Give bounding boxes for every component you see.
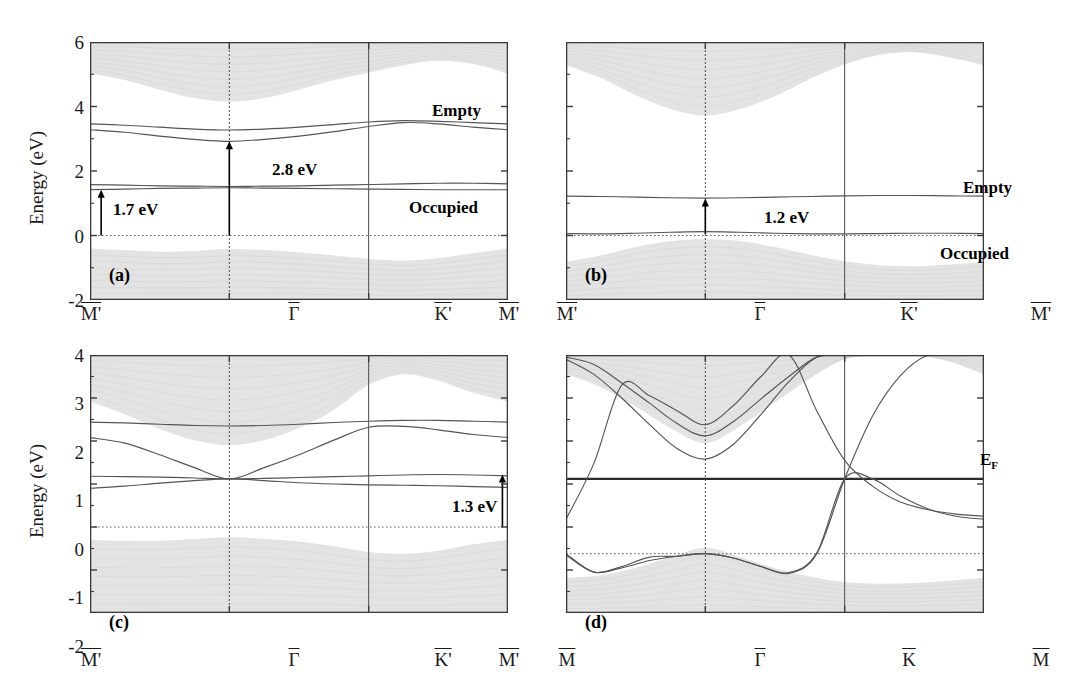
panel-b: [566, 42, 984, 300]
panel-b-label: (b): [585, 265, 607, 286]
panel-a-xtick-Mleft: M': [71, 303, 111, 325]
figure-band-structures: Energy (eV) 6 4 2 0 -2 M' Γ K' M' Empty …: [0, 0, 1087, 686]
panel-c-ytick-0: 0: [54, 539, 84, 561]
panel-a-ytick-4: 4: [54, 97, 84, 119]
panel-a-occupied-label: Occupied: [409, 198, 478, 218]
panel-c-xtick-Kprime: K': [423, 649, 463, 671]
panel-c-ytick-1: 1: [54, 490, 84, 512]
panel-d-xtick-K: K: [889, 649, 929, 671]
panel-a-xtick-Gamma: Γ: [274, 303, 314, 325]
panel-a-ytick-6: 6: [54, 32, 84, 54]
panel-c-ytick-3: 3: [54, 393, 84, 415]
panel-a-gap-center-label: 2.8 eV: [272, 160, 317, 180]
panel-a-empty-label: Empty: [432, 101, 481, 121]
panel-a-ytick-2: 2: [54, 161, 84, 183]
panel-c: [90, 355, 508, 613]
panel-b-xtick-Gamma: Γ: [740, 303, 780, 325]
panel-c-xtick-Mleft: M': [71, 649, 111, 671]
panel-b-empty-label: Empty: [963, 178, 1012, 198]
panel-a-gap-left-label: 1.7 eV: [113, 200, 158, 220]
panel-c-label: (c): [109, 612, 129, 633]
panel-d-label: (d): [585, 612, 607, 633]
panel-a-label: (a): [109, 265, 130, 286]
panel-d-xtick-Mleft: M: [547, 649, 587, 671]
panel-a-xtick-Kprime: K': [423, 303, 463, 325]
panel-d-xtick-Gamma: Γ: [740, 649, 780, 671]
panel-c-y-axis-label: Energy (eV): [26, 444, 48, 538]
panel-a-ytick-0: 0: [54, 226, 84, 248]
panel-a-xtick-Mright: M': [489, 303, 529, 325]
panel-d-xtick-Mright: M: [1021, 649, 1061, 671]
panel-b-xtick-Mleft: M': [547, 303, 587, 325]
panel-d: [566, 355, 984, 613]
panel-c-gap-right-label: 1.3 eV: [452, 497, 497, 517]
panel-c-ytick-neg1: -1: [46, 587, 84, 609]
panel-b-xtick-Kprime: K': [889, 303, 929, 325]
panel-b-xtick-Mright: M': [1021, 303, 1061, 325]
panel-b-occupied-label: Occupied: [940, 244, 1009, 264]
panel-c-ytick-4: 4: [54, 345, 84, 367]
panel-b-gap-center-label: 1.2 eV: [764, 208, 809, 228]
panel-c-ytick-2: 2: [54, 442, 84, 464]
panel-c-xtick-Gamma: Γ: [274, 649, 314, 671]
panel-a-y-axis-label: Energy (eV): [26, 131, 48, 225]
panel-d-fermi-label: EF: [980, 450, 998, 471]
panel-c-xtick-Mright: M': [489, 649, 529, 671]
